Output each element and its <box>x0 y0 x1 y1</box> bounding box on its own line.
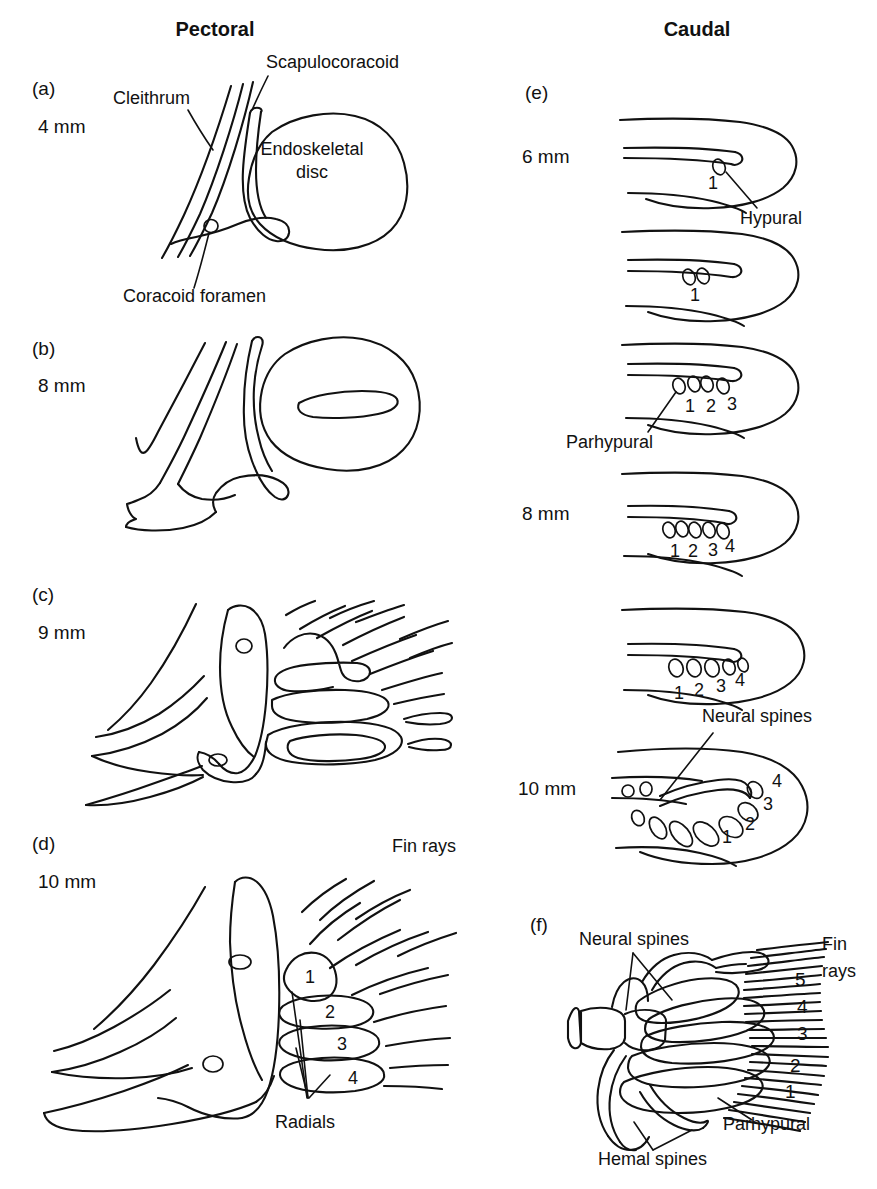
label-parhypural-f: Parhypural <box>723 1114 810 1134</box>
label-fin-rays-f-line2: rays <box>822 961 856 981</box>
stage-2-number-1: 1 <box>690 285 700 305</box>
caudal-stage-2: 1 <box>622 231 798 326</box>
stage-5-number-2: 2 <box>694 680 704 700</box>
stage-3-number-2: 2 <box>706 396 716 416</box>
stage-6-number-1: 1 <box>722 827 732 847</box>
radial-number-2: 2 <box>325 1002 335 1022</box>
stage-4-number-1: 1 <box>670 541 680 561</box>
caudal-stage-4: 1 2 3 4 <box>622 473 798 576</box>
stage-5-number-1: 1 <box>674 683 684 703</box>
label-scapulocoracoid: Scapulocoracoid <box>266 52 399 72</box>
caudal-stage-6: 4 3 2 1 <box>612 733 807 866</box>
panel-e: (e) 6 mm 8 mm 10 mm 1 Hypural 1 <box>518 82 812 866</box>
panel-d-size: 10 mm <box>38 871 96 892</box>
panel-f-label: (f) <box>530 914 548 935</box>
stage-4-number-2: 2 <box>688 541 698 561</box>
stage-5-number-4: 4 <box>735 670 745 690</box>
label-parhypural-e: Parhypural <box>566 432 653 452</box>
radial-number-3: 3 <box>337 1034 347 1054</box>
panel-e-size-8mm: 8 mm <box>522 503 570 524</box>
stage-3-number-3: 3 <box>727 394 737 414</box>
f-hypural-number-4: 4 <box>797 996 808 1017</box>
label-neural-spines-f: Neural spines <box>579 929 689 949</box>
panel-f: (f) 5 4 3 2 1 <box>530 914 856 1169</box>
stage-3-number-1: 1 <box>685 396 695 416</box>
label-fin-rays-d: Fin rays <box>392 836 456 856</box>
panel-a-size: 4 mm <box>38 116 86 137</box>
label-radials: Radials <box>275 1112 335 1132</box>
panel-d: (d) 10 mm <box>32 833 456 1132</box>
figure-canvas: Pectoral Caudal (a) 4 mm Cleithrum Scapu… <box>0 0 877 1189</box>
panel-c: (c) 9 mm <box>32 584 452 805</box>
caudal-stage-1: 1 Hypural <box>620 119 802 228</box>
label-cleithrum: Cleithrum <box>113 88 190 108</box>
panel-c-label: (c) <box>32 584 54 605</box>
stage-6-number-3: 3 <box>763 794 773 814</box>
stage-1-number-1: 1 <box>708 173 718 193</box>
label-hemal-spines: Hemal spines <box>598 1149 707 1169</box>
panel-a-label: (a) <box>32 78 55 99</box>
f-fin-rays <box>724 942 828 1131</box>
label-endoskeletal-disc-line2: disc <box>296 162 328 182</box>
caudal-stage-5: 1 2 3 4 Neural spines <box>622 609 812 726</box>
radial-number-1: 1 <box>305 967 315 987</box>
heading-caudal: Caudal <box>664 18 731 40</box>
label-hypural: Hypural <box>740 208 802 228</box>
stage-6-number-2: 2 <box>745 814 755 834</box>
label-neural-spines-e: Neural spines <box>702 706 812 726</box>
caudal-stage-3: 1 2 3 Parhypural <box>566 344 798 452</box>
panel-b-label: (b) <box>32 338 55 359</box>
panel-c-size: 9 mm <box>38 622 86 643</box>
radial-number-4: 4 <box>348 1068 358 1088</box>
panel-b-size: 8 mm <box>38 375 86 396</box>
heading-pectoral: Pectoral <box>176 18 255 40</box>
label-fin-rays-f-line1: Fin <box>822 934 847 954</box>
stage-4-number-3: 3 <box>708 540 718 560</box>
panel-e-size-6mm: 6 mm <box>522 146 570 167</box>
panel-b: (b) 8 mm <box>32 337 420 531</box>
label-endoskeletal-disc-line1: Endoskeletal <box>260 139 363 159</box>
panel-e-size-10mm: 10 mm <box>518 778 576 799</box>
stage-6-number-4: 4 <box>772 771 782 791</box>
panel-a: (a) 4 mm Cleithrum Scapulocoracoid Endos… <box>32 52 407 306</box>
label-coracoid-foramen: Coracoid foramen <box>123 286 266 306</box>
f-hypural-number-3: 3 <box>797 1023 808 1044</box>
panel-e-label: (e) <box>525 82 548 103</box>
panel-d-label: (d) <box>32 833 55 854</box>
stage-4-number-4: 4 <box>725 536 735 556</box>
stage-5-number-3: 3 <box>716 676 726 696</box>
